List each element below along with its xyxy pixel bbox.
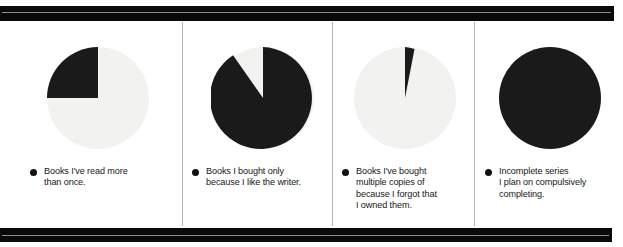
pie-chart-3-wrap bbox=[333, 46, 474, 150]
top-rule-hairline bbox=[2, 12, 611, 13]
pie-panel-3: Books I've bought multiple copies of bec… bbox=[332, 22, 474, 226]
caption-2: Books I bought only because I like the w… bbox=[192, 166, 326, 189]
panel-strip: Books I've read more than once. Books I … bbox=[0, 22, 623, 226]
bottom-rule-hairline bbox=[2, 235, 609, 236]
bullet-icon bbox=[342, 169, 349, 176]
caption-3: Books I've bought multiple copies of bec… bbox=[342, 166, 470, 212]
top-rule bbox=[0, 6, 614, 21]
pie-panel-2: Books I bought only because I like the w… bbox=[182, 22, 332, 226]
caption-1: Books I've read more than once. bbox=[30, 166, 174, 189]
pie-chart-1 bbox=[46, 46, 150, 150]
bullet-icon bbox=[192, 169, 199, 176]
pie-chart-4 bbox=[498, 46, 602, 150]
figure-canvas: Books I've read more than once. Books I … bbox=[0, 0, 623, 247]
caption-4-text: Incomplete series I plan on compulsively… bbox=[499, 166, 586, 200]
bullet-icon bbox=[30, 169, 37, 176]
pie-chart-3 bbox=[353, 46, 457, 150]
pie-chart-1-wrap bbox=[0, 46, 182, 150]
caption-2-text: Books I bought only because I like the w… bbox=[206, 166, 301, 189]
pie-chart-2 bbox=[211, 46, 315, 150]
bottom-rule bbox=[0, 228, 612, 242]
caption-4: Incomplete series I plan on compulsively… bbox=[485, 166, 619, 200]
pie-panel-4: Incomplete series I plan on compulsively… bbox=[474, 22, 623, 226]
caption-1-text: Books I've read more than once. bbox=[44, 166, 128, 189]
pie-panel-1: Books I've read more than once. bbox=[0, 22, 182, 226]
pie-slice-filled bbox=[47, 47, 98, 98]
pie-chart-2-wrap bbox=[183, 46, 332, 150]
pie-slice-filled bbox=[499, 47, 601, 149]
bullet-icon bbox=[485, 169, 492, 176]
caption-3-text: Books I've bought multiple copies of bec… bbox=[356, 166, 437, 212]
pie-chart-4-wrap bbox=[475, 46, 623, 150]
